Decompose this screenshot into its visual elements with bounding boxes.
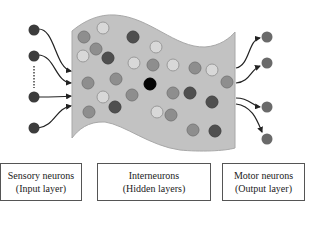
input-neuron <box>29 123 40 134</box>
output-neuron <box>262 32 273 43</box>
hidden-neuron <box>206 64 218 76</box>
hidden-layer-label-box: Interneurons (Hidden layers) <box>97 163 211 201</box>
hidden-layer-subtitle: (Hidden layers) <box>123 182 185 195</box>
hidden-neuron <box>82 77 94 89</box>
hidden-neuron <box>209 125 221 137</box>
output-layer-label-box: Motor neurons (Output layer) <box>222 163 305 201</box>
hidden-neuron <box>144 78 156 90</box>
hidden-neuron <box>167 87 179 99</box>
hidden-neuron <box>151 106 163 118</box>
output-layer-subtitle: (Output layer) <box>235 182 292 195</box>
hidden-neuron <box>97 91 109 103</box>
hidden-neuron <box>128 57 140 69</box>
hidden-neuron <box>102 52 114 64</box>
hidden-neuron <box>127 31 139 43</box>
hidden-neuron <box>90 43 102 55</box>
input-neuron <box>29 25 40 36</box>
hidden-neuron <box>110 73 122 85</box>
output-arrows <box>236 38 262 132</box>
hidden-layer-title: Interneurons <box>129 169 180 182</box>
hidden-neuron <box>150 41 162 53</box>
hidden-neuron <box>184 87 196 99</box>
hidden-neuron <box>77 50 89 62</box>
output-neurons <box>262 32 273 145</box>
input-layer-subtitle: (Input layer) <box>16 182 66 195</box>
hidden-neuron <box>126 89 138 101</box>
output-neuron <box>262 58 273 69</box>
output-layer-title: Motor neurons <box>234 169 293 182</box>
hidden-neuron <box>167 59 179 71</box>
input-layer-title: Sensory neurons <box>8 169 74 182</box>
hidden-neuron <box>165 109 177 121</box>
hidden-neuron <box>97 22 109 34</box>
hidden-neuron <box>78 31 90 43</box>
output-neuron <box>262 102 273 113</box>
input-neuron <box>29 51 40 62</box>
hidden-neuron <box>147 59 159 71</box>
input-arrows <box>38 29 71 128</box>
hidden-neuron <box>83 106 95 118</box>
input-layer-label-box: Sensory neurons (Input layer) <box>0 163 82 201</box>
hidden-neuron <box>109 101 121 113</box>
output-neuron <box>262 134 273 145</box>
hidden-neuron <box>187 124 199 136</box>
hidden-neuron <box>206 96 218 108</box>
hidden-neuron <box>221 76 233 88</box>
input-neuron <box>29 92 40 103</box>
hidden-neuron <box>189 62 201 74</box>
